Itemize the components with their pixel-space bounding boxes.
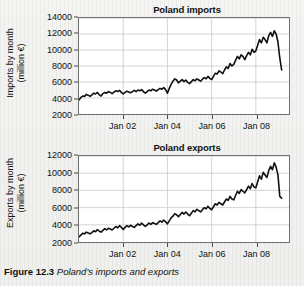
plot-area-imports: 2000400060008000100001200014000 Jan 02Ja… bbox=[78, 17, 290, 115]
y-axis-tick-label: 2000 bbox=[52, 239, 72, 248]
x-axis-tick-mark bbox=[123, 243, 124, 247]
data-series-line bbox=[79, 163, 282, 237]
y-axis-tick-label: 10000 bbox=[47, 168, 72, 177]
figure-caption-label: Figure 12.3 bbox=[4, 266, 54, 277]
x-axis-tick-label: Jan 04 bbox=[154, 122, 181, 131]
x-axis-tick-label: Jan 02 bbox=[109, 250, 136, 259]
y-axis-tick-label: 12000 bbox=[47, 29, 72, 38]
y-axis-tick-label: 6000 bbox=[52, 203, 72, 212]
x-axis-labels-exports: Jan 02Jan 04Jan 06Jan 08 bbox=[78, 243, 290, 267]
chart-panel-imports: Poland imports Imports by month (million… bbox=[0, 4, 304, 140]
y-axis-tick-label: 8000 bbox=[52, 186, 72, 195]
x-axis-tick-label: Jan 06 bbox=[198, 122, 225, 131]
x-axis-tick-mark bbox=[212, 115, 213, 119]
line-chart-exports bbox=[79, 156, 289, 242]
x-axis-tick-mark bbox=[212, 243, 213, 247]
line-chart-imports bbox=[79, 18, 289, 114]
x-axis-tick-mark bbox=[257, 115, 258, 119]
y-axis-tick-label: 12000 bbox=[47, 151, 72, 160]
plot-area-exports: 20004000600080001000012000 Jan 02Jan 04J… bbox=[78, 155, 290, 243]
chart-panel-exports: Poland exports Exports by month (million… bbox=[0, 142, 304, 262]
data-series-line bbox=[79, 31, 282, 100]
y-axis-tick-label: 4000 bbox=[52, 94, 72, 103]
y-axis-tick-label: 4000 bbox=[52, 221, 72, 230]
x-axis-tick-label: Jan 06 bbox=[198, 250, 225, 259]
x-axis-tick-mark bbox=[167, 115, 168, 119]
x-axis-tick-label: Jan 08 bbox=[243, 250, 270, 259]
figure-caption-text: Poland's imports and exports bbox=[57, 266, 179, 277]
y-axis-tick-label: 2000 bbox=[52, 111, 72, 120]
chart-title-exports: Poland exports bbox=[78, 142, 296, 154]
x-axis-tick-label: Jan 04 bbox=[154, 250, 181, 259]
plot-canvas-imports bbox=[78, 17, 290, 115]
x-axis-labels-imports: Jan 02Jan 04Jan 06Jan 08 bbox=[78, 115, 290, 139]
x-axis-tick-label: Jan 08 bbox=[243, 122, 270, 131]
y-axis-tick-label: 10000 bbox=[47, 45, 72, 54]
figure-caption: Figure 12.3 Poland's imports and exports bbox=[4, 266, 300, 278]
plot-canvas-exports bbox=[78, 155, 290, 243]
x-axis-tick-label: Jan 02 bbox=[109, 122, 136, 131]
x-axis-tick-mark bbox=[123, 115, 124, 119]
x-axis-tick-mark bbox=[257, 243, 258, 247]
y-axis-tick-label: 14000 bbox=[47, 13, 72, 22]
y-axis-tick-label: 6000 bbox=[52, 78, 72, 87]
y-axis-labels-exports: 20004000600080001000012000 bbox=[6, 155, 78, 243]
y-axis-tick-label: 8000 bbox=[52, 62, 72, 71]
x-axis-tick-mark bbox=[167, 243, 168, 247]
y-axis-labels-imports: 2000400060008000100001200014000 bbox=[6, 17, 78, 115]
chart-title-imports: Poland imports bbox=[78, 4, 296, 16]
figure-poland-trade: Poland imports Imports by month (million… bbox=[0, 0, 304, 286]
